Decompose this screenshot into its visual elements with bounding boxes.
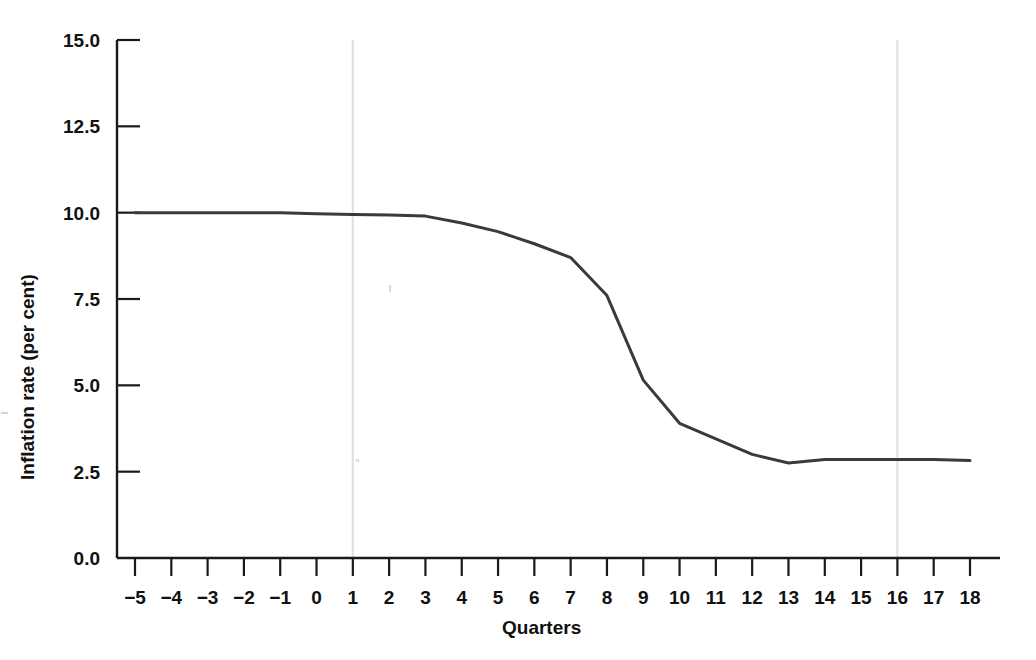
chart-plot-area xyxy=(0,0,1036,660)
x-axis-tick-label: 1 xyxy=(348,588,359,607)
x-axis-title: Quarters xyxy=(502,618,581,637)
y-axis-tick-label: 7.5 xyxy=(28,290,100,309)
x-axis-tick-label: 10 xyxy=(669,588,690,607)
x-axis-ticks xyxy=(135,558,970,576)
x-axis-tick-label: 17 xyxy=(923,588,944,607)
x-axis-tick-label: 9 xyxy=(638,588,649,607)
axis-spines xyxy=(117,40,1000,558)
x-axis-tick-label: 14 xyxy=(814,588,835,607)
y-axis-tick-label: 12.5 xyxy=(28,117,100,136)
y-axis-tick-label: 5.0 xyxy=(28,376,100,395)
x-axis-tick-label: 13 xyxy=(778,588,799,607)
scan-artifact-speck xyxy=(389,285,391,292)
x-axis-tick-label: −1 xyxy=(269,588,291,607)
x-axis-tick-label: 12 xyxy=(742,588,763,607)
y-axis-title: Inflation rate (per cent) xyxy=(18,274,37,480)
x-axis-tick-label: 16 xyxy=(887,588,908,607)
y-axis-tick-label: 15.0 xyxy=(28,31,100,50)
x-axis-tick-label: 11 xyxy=(706,588,726,607)
scan-artifact-speck xyxy=(1,412,8,414)
x-axis-tick-label: 7 xyxy=(565,588,576,607)
x-axis-tick-label: 0 xyxy=(311,588,322,607)
x-axis-tick-label: 15 xyxy=(851,588,872,607)
vertical-reference-lines xyxy=(353,40,898,558)
x-axis-tick-label: 6 xyxy=(529,588,540,607)
y-axis-tick-label: 0.0 xyxy=(28,549,100,568)
y-axis-tick-label: 2.5 xyxy=(28,462,100,481)
x-axis-tick-label: 4 xyxy=(456,588,467,607)
inflation-rate-line xyxy=(135,213,970,463)
x-axis-tick-label: −2 xyxy=(233,588,255,607)
x-axis-tick-label: 5 xyxy=(493,588,504,607)
x-axis-tick-label: 18 xyxy=(959,588,980,607)
chart-figure: 0.02.55.07.510.012.515.0 −5−4−3−2−101234… xyxy=(0,0,1036,660)
y-axis-tick-label: 10.0 xyxy=(28,203,100,222)
x-axis-tick-label: 8 xyxy=(602,588,613,607)
x-axis-tick-label: 2 xyxy=(384,588,395,607)
x-axis-tick-label: −3 xyxy=(197,588,219,607)
x-axis-tick-label: 3 xyxy=(420,588,431,607)
x-axis-tick-label: −4 xyxy=(160,588,182,607)
y-axis-ticks xyxy=(117,40,140,472)
scan-artifact-speck xyxy=(356,459,359,462)
x-axis-tick-label: −5 xyxy=(124,588,146,607)
